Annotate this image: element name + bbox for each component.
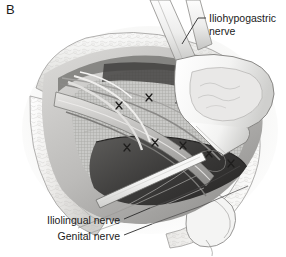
figure-panel-b: B Iliohypogastric nerve Iliolingual nerv… bbox=[0, 0, 286, 257]
label-iliolingual-nerve: Iliolingual nerve bbox=[2, 214, 120, 227]
label-iliohypogastric-nerve: Iliohypogastric nerve bbox=[209, 12, 276, 37]
panel-letter: B bbox=[6, 3, 15, 16]
label-genital-nerve: Genital nerve bbox=[2, 230, 120, 243]
